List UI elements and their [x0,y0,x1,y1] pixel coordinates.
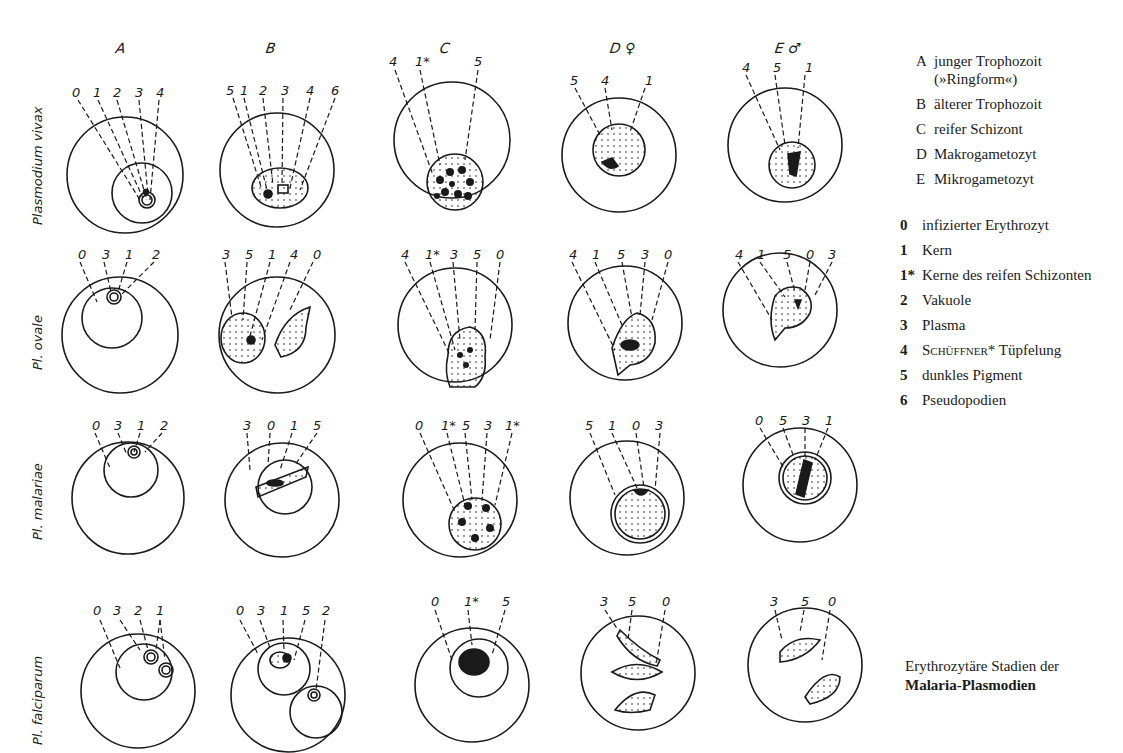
svg-text:5: 5 [779,413,787,428]
svg-text:3: 3 [243,418,251,433]
cell-ovale-c [398,268,512,387]
legend-item-2: 2Vakuole [900,291,1120,309]
cell-ovale-e [723,253,837,367]
cell-ovale-d [568,266,682,380]
legend-item-1: 1Kern [900,241,1120,259]
legend-item-5: 5dunkles Pigment [900,366,1120,384]
cell-falciparum-b [231,638,345,752]
plasmodium-stage-figure: A B C D ♀ E ♂ Plasmodium vivax Pl. ovale… [0,0,880,753]
cell-falciparum-c [415,628,529,742]
svg-text:1: 1 [805,60,813,75]
svg-text:3: 3 [281,83,289,98]
svg-text:1: 1 [608,418,616,433]
cell-malariae-a [72,442,184,554]
svg-text:5: 5 [302,603,310,618]
svg-text:0: 0 [92,418,100,433]
legend-item-c: Creifer Schizont [916,120,1123,138]
svg-text:2: 2 [152,247,160,262]
svg-text:1*: 1* [464,594,479,609]
svg-text:0: 0 [415,418,423,433]
svg-text:0: 0 [72,85,80,100]
svg-text:1: 1 [825,413,833,428]
cell-vivax-b [220,113,334,227]
figure-caption: Erythrozytäre Stadien der Malaria-Plasmo… [905,657,1059,695]
svg-text:0: 0 [236,603,244,618]
cell-falciparum-d [581,616,695,730]
legend-item-a: Ajunger Trophozoit (»Ringform«) [916,52,1123,88]
svg-text:4: 4 [569,247,577,262]
svg-text:4: 4 [290,247,298,262]
svg-text:5: 5 [773,60,781,75]
svg-text:4: 4 [389,54,397,69]
legend-item-6: 6Pseudopodien [900,391,1120,409]
cell-ovale-b [219,277,335,393]
svg-text:5: 5 [473,247,481,262]
svg-text:1: 1 [125,247,133,262]
cell-malariae-d [570,441,684,555]
svg-text:4: 4 [306,83,314,98]
svg-text:1: 1 [240,83,248,98]
svg-text:1: 1 [280,603,288,618]
legend-item-b: Bälterer Trophozoit [916,95,1123,113]
structure-legend: 0infizierter Erythrozyt 1Kern 1*Kerne de… [900,216,1120,416]
svg-text:5: 5 [245,247,253,262]
svg-text:3: 3 [828,247,836,262]
svg-text:3: 3 [102,247,110,262]
svg-text:0: 0 [632,418,640,433]
svg-text:3: 3 [600,594,608,609]
svg-text:1*: 1* [505,418,520,433]
svg-text:3: 3 [114,418,122,433]
svg-text:3: 3 [641,247,649,262]
svg-text:1*: 1* [441,418,456,433]
svg-text:4: 4 [401,247,409,262]
svg-text:3: 3 [257,603,265,618]
svg-text:3: 3 [484,418,492,433]
svg-text:5: 5 [313,418,321,433]
cell-drawings: 01234 512346 41*5 541 451 0312 35140 41*… [0,0,880,753]
callouts-malariae: 0312 3015 01*531* 5103 0531 [92,413,833,433]
svg-text:5: 5 [617,247,625,262]
legend-item-0: 0infizierter Erythrozyt [900,216,1120,234]
svg-text:3: 3 [450,247,458,262]
svg-text:1: 1 [137,418,145,433]
cell-malariae-c [403,443,517,557]
stage-legend: Ajunger Trophozoit (»Ringform«) Bälterer… [916,52,1123,195]
svg-text:2: 2 [259,83,267,98]
svg-text:0: 0 [828,594,836,609]
svg-text:0: 0 [662,594,670,609]
svg-text:1: 1 [93,85,101,100]
svg-text:5: 5 [628,594,636,609]
cell-vivax-e [728,88,842,202]
svg-text:0: 0 [806,247,814,262]
svg-text:2: 2 [134,603,142,618]
svg-text:4: 4 [156,85,164,100]
cell-falciparum-e [748,608,862,722]
svg-text:5: 5 [801,594,809,609]
svg-text:4: 4 [735,247,743,262]
cell-vivax-d [562,98,676,212]
svg-text:1*: 1* [425,247,440,262]
svg-text:6: 6 [331,83,339,98]
svg-text:4: 4 [601,73,609,88]
svg-text:0: 0 [664,247,672,262]
svg-text:5: 5 [783,247,791,262]
svg-text:0: 0 [755,413,763,428]
legend-item-e: EMikrogametozyt [916,170,1123,188]
legend-item-d: DMakrogametozyt [916,145,1123,163]
callouts-falciparum: 0321 03152 01*5 350 350 [93,594,836,618]
svg-text:5: 5 [474,54,482,69]
callouts-vivax: 01234 512346 41*5 541 451 [72,54,813,100]
svg-text:0: 0 [93,603,101,618]
svg-text:1: 1 [156,603,164,618]
svg-text:2: 2 [160,418,168,433]
svg-text:0: 0 [431,594,439,609]
svg-text:3: 3 [135,85,143,100]
svg-text:1*: 1* [415,54,430,69]
svg-text:5: 5 [462,418,470,433]
legend-item-1-star: 1*Kerne des reifen Schizonten [900,266,1120,284]
svg-text:0: 0 [496,247,504,262]
svg-text:1: 1 [645,73,653,88]
cell-malariae-e [743,428,857,542]
svg-text:3: 3 [113,603,121,618]
svg-text:4: 4 [742,60,750,75]
